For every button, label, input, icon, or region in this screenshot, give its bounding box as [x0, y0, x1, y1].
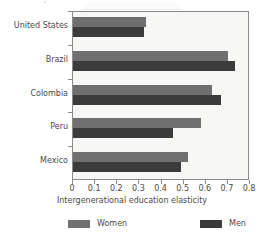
x-axis-tick-label: 0.7 — [215, 184, 239, 194]
scan-artifact-bar — [84, 2, 180, 10]
x-axis-tick-label: 0.8 — [237, 184, 261, 194]
legend-swatch-women-icon — [68, 220, 90, 228]
x-axis-tick-label: 0.6 — [193, 184, 217, 194]
x-axis-tick-label: 0.2 — [104, 184, 128, 194]
bar-women-peru — [73, 118, 201, 128]
legend-item-men[interactable]: Men — [200, 219, 246, 228]
bar-men-colombia — [73, 95, 221, 105]
y-axis-tick — [68, 11, 72, 12]
y-axis-tick — [68, 146, 72, 147]
category-label-brazil: Brazil — [46, 55, 68, 64]
x-axis-title: Intergenerational education elasticity — [0, 196, 264, 206]
legend-swatch-men-icon — [200, 220, 222, 228]
legend-label-men: Men — [229, 219, 246, 228]
bar-men-peru — [73, 128, 173, 138]
category-label-peru: Peru — [50, 122, 68, 131]
bar-women-united-states — [73, 17, 146, 27]
legend-label-women: Women — [97, 219, 127, 228]
x-axis-tick-label: 0 — [60, 184, 84, 194]
chart-figure: United StatesBrazilColombiaPeruMexico 00… — [0, 0, 264, 239]
x-axis-tick-label: 0.1 — [82, 184, 106, 194]
x-axis-tick-label: 0.4 — [149, 184, 173, 194]
y-axis-tick — [68, 79, 72, 80]
bar-men-united-states — [73, 27, 144, 37]
bar-men-mexico — [73, 162, 181, 172]
bar-men-brazil — [73, 61, 235, 71]
chart-legend: Women Men — [72, 219, 249, 233]
plot-area — [72, 11, 249, 180]
legend-item-women[interactable]: Women — [68, 219, 127, 228]
bar-women-mexico — [73, 152, 188, 162]
bars-layer — [73, 12, 248, 179]
y-axis-tick — [68, 112, 72, 113]
x-axis-tick-label: 0.5 — [171, 184, 195, 194]
x-axis-tick-label: 0.3 — [126, 184, 150, 194]
category-label-colombia: Colombia — [30, 89, 68, 98]
bar-women-colombia — [73, 85, 212, 95]
category-label-mexico: Mexico — [40, 156, 68, 165]
category-label-united-states: United States — [14, 21, 68, 30]
y-axis-tick — [68, 45, 72, 46]
scan-artifact-speck — [44, 1, 46, 3]
bar-women-brazil — [73, 51, 228, 61]
